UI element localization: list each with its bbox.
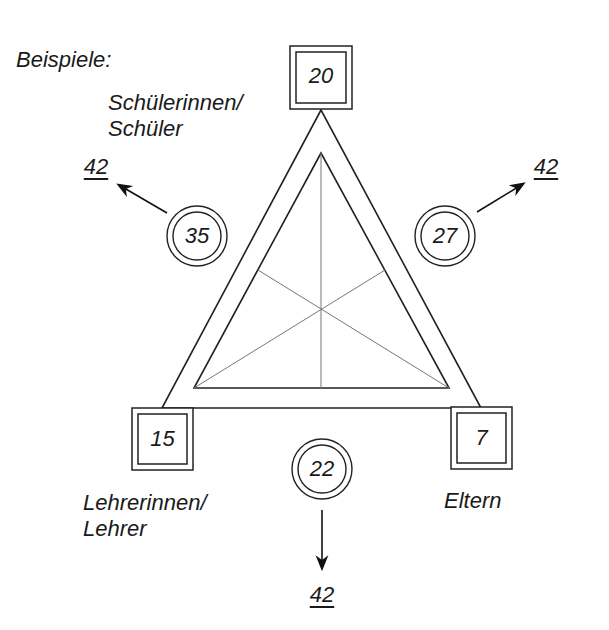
value-top: 20 — [296, 63, 346, 89]
label-top-line2: Schüler — [108, 116, 183, 142]
value-bottom-left: 15 — [138, 426, 187, 452]
result-right: 42 — [526, 154, 566, 180]
medians — [194, 153, 449, 388]
result-left: 42 — [76, 154, 116, 180]
label-bottom-right: Eltern — [444, 488, 501, 514]
value-edge-right: 27 — [421, 223, 469, 249]
value-edge-left: 35 — [173, 223, 221, 249]
label-top-line1: Schülerinnen/ — [108, 90, 243, 116]
arrow-left — [119, 185, 167, 213]
title: Beispiele: — [16, 47, 111, 73]
value-edge-bottom: 22 — [298, 456, 346, 482]
result-bottom: 42 — [302, 582, 342, 608]
label-bottom-left-line1: Lehrerinnen/ — [83, 490, 207, 516]
value-bottom-right: 7 — [457, 425, 506, 451]
arrow-right — [477, 184, 523, 212]
label-bottom-left-line2: Lehrer — [83, 516, 147, 542]
